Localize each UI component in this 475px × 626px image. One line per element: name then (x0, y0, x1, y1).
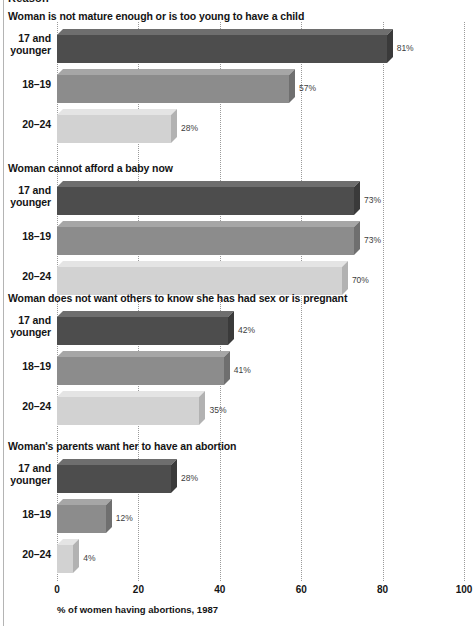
bar-value-label: 81% (397, 43, 414, 53)
bar-top-face (57, 221, 360, 227)
bar[interactable] (57, 311, 228, 345)
bar-row: 18–1973% (0, 220, 475, 254)
bar-side-face (354, 221, 360, 255)
bar-value-label: 4% (83, 553, 95, 563)
bar-value-label: 57% (299, 83, 316, 93)
bar-side-face (199, 391, 205, 425)
bar-value-label: 70% (352, 275, 369, 285)
bar-value-label: 35% (209, 405, 226, 415)
group-title: Woman cannot afford a baby now (8, 162, 173, 174)
bar-value-label: 28% (181, 123, 198, 133)
bar-front-face (57, 227, 354, 255)
bar-front-face (57, 397, 199, 425)
bar-side-face (106, 499, 112, 533)
bar-value-label: 28% (181, 473, 198, 483)
bar-top-face (57, 351, 230, 357)
x-axis-line (57, 581, 464, 582)
bar-chart-plot-area: Woman is not mature enough or is too you… (0, 0, 475, 626)
bar-top-face (57, 181, 360, 187)
bar[interactable] (57, 109, 171, 143)
bar-row: 17 andyounger73% (0, 180, 475, 214)
bar-category-label: 20–24 (0, 271, 51, 283)
bar-top-face (57, 69, 295, 75)
bar-front-face (57, 545, 73, 573)
bar-row: 18–1957% (0, 68, 475, 102)
group-title: Woman is not mature enough or is too you… (8, 10, 304, 22)
bar-category-label: 17 andyounger (0, 463, 51, 486)
bar-front-face (57, 75, 289, 103)
bar-top-face (57, 499, 112, 505)
bar-category-label: 18–19 (0, 509, 51, 521)
bar[interactable] (57, 499, 106, 533)
bar-top-face (57, 109, 177, 115)
bar-side-face (228, 311, 234, 345)
bar-row: 17 andyounger81% (0, 28, 475, 62)
bar[interactable] (57, 539, 73, 573)
bar-side-face (354, 181, 360, 215)
bar[interactable] (57, 391, 199, 425)
bar-category-label: 18–19 (0, 231, 51, 243)
bar-row: 20–2428% (0, 108, 475, 142)
bar-top-face (57, 459, 177, 465)
bar-row: 17 andyounger42% (0, 310, 475, 344)
bar-side-face (342, 261, 348, 295)
bar[interactable] (57, 459, 171, 493)
bar[interactable] (57, 221, 354, 255)
bar-row: 17 andyounger28% (0, 458, 475, 492)
bar-category-label: 18–19 (0, 79, 51, 91)
bar-side-face (224, 351, 230, 385)
bar-row: 20–2435% (0, 390, 475, 424)
bar-value-label: 73% (364, 235, 381, 245)
bar-side-face (289, 69, 295, 103)
bar-side-face (171, 459, 177, 493)
group-title: Woman does not want others to know she h… (8, 292, 347, 304)
x-axis-tick-label: 20 (133, 584, 144, 595)
bar-category-label: 17 andyounger (0, 33, 51, 56)
bar-row: 20–2470% (0, 260, 475, 294)
bar-front-face (57, 187, 354, 215)
bar-category-label: 17 andyounger (0, 185, 51, 208)
bar-category-label: 20–24 (0, 401, 51, 413)
bar-front-face (57, 357, 224, 385)
x-axis-tick-label: 100 (456, 584, 473, 595)
bar-category-label: 20–24 (0, 549, 51, 561)
bar-front-face (57, 115, 171, 143)
bar-value-label: 73% (364, 195, 381, 205)
bar-category-label: 20–24 (0, 119, 51, 131)
bar[interactable] (57, 261, 342, 295)
bar-top-face (57, 261, 348, 267)
chart-page: Reason Woman is not mature enough or is … (0, 0, 475, 626)
bar-top-face (57, 311, 234, 317)
group-title: Woman's parents want her to have an abor… (8, 440, 236, 452)
bar-row: 20–244% (0, 538, 475, 572)
x-axis-caption: % of women having abortions, 1987 (57, 604, 218, 615)
bar-category-label: 18–19 (0, 361, 51, 373)
bar-side-face (171, 109, 177, 143)
bar-value-label: 12% (116, 513, 133, 523)
bar-top-face (57, 29, 393, 35)
bar-side-face (387, 29, 393, 63)
bar-side-face (73, 539, 79, 573)
bar-value-label: 42% (238, 325, 255, 335)
bar-front-face (57, 35, 387, 63)
bar-front-face (57, 317, 228, 345)
bar-row: 18–1941% (0, 350, 475, 384)
bar-front-face (57, 505, 106, 533)
x-axis-tick-label: 40 (214, 584, 225, 595)
bar[interactable] (57, 69, 289, 103)
bar-top-face (57, 391, 205, 397)
x-axis-tick-label: 60 (296, 584, 307, 595)
bar[interactable] (57, 181, 354, 215)
bar-front-face (57, 465, 171, 493)
bar-category-label: 17 andyounger (0, 315, 51, 338)
bar[interactable] (57, 29, 387, 63)
x-axis-tick-label: 0 (54, 584, 60, 595)
bar[interactable] (57, 351, 224, 385)
bar-front-face (57, 267, 342, 295)
bar-row: 18–1912% (0, 498, 475, 532)
x-axis-tick-label: 80 (377, 584, 388, 595)
bar-value-label: 41% (234, 365, 251, 375)
